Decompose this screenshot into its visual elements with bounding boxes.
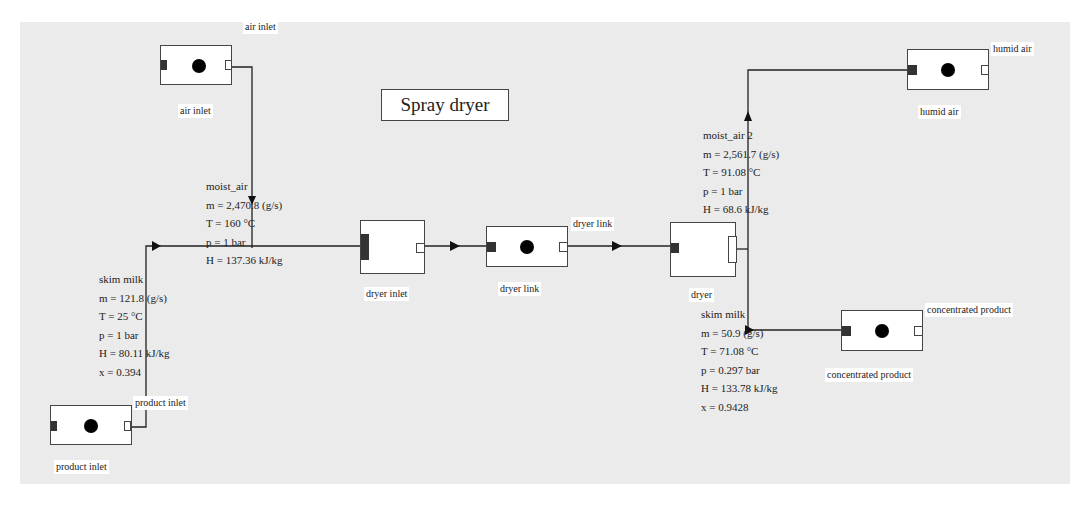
stream-moist-air-2: moist_air 2 m = 2,561.7 (g/s) T = 91.08 … — [703, 126, 779, 219]
product-inlet-bottom-label: product inlet — [54, 460, 109, 474]
source-dot-icon — [520, 240, 534, 254]
dryer-link-bottom-label: dryer link — [498, 282, 541, 296]
arrow-right-icon — [450, 241, 460, 251]
inlet-port[interactable] — [487, 242, 496, 252]
stream-pressure: p = 0.297 bar — [701, 361, 777, 380]
stream-pressure: p = 1 bar — [99, 326, 170, 345]
outlet-port[interactable] — [559, 242, 568, 252]
sink-dot-icon — [941, 63, 955, 77]
sink-dot-icon — [875, 324, 889, 338]
stream-temperature: T = 91.08 °C — [703, 163, 779, 182]
stream-name: skim milk — [701, 305, 777, 324]
air-inlet-block[interactable] — [160, 45, 232, 85]
arrow-right-icon — [152, 241, 161, 251]
inlet-port[interactable] — [671, 243, 679, 253]
stream-mass-flow: m = 121.8 (g/s) — [99, 289, 170, 308]
stream-mass-flow: m = 2,470.8 (g/s) — [206, 196, 282, 215]
stream-enthalpy: H = 137.36 kJ/kg — [206, 251, 282, 270]
product-inlet-top-label: product inlet — [133, 396, 188, 410]
outlet-port[interactable] — [225, 60, 232, 70]
stream-name: moist_air 2 — [703, 126, 779, 145]
stream-temperature: T = 71.08 °C — [701, 342, 777, 361]
stream-enthalpy: H = 68.6 kJ/kg — [703, 200, 779, 219]
source-dot-icon — [192, 59, 206, 73]
outlet-port[interactable] — [981, 65, 989, 75]
dryer-inlet-label: dryer inlet — [364, 287, 409, 301]
product-inlet-block[interactable] — [50, 405, 132, 445]
inlet-port[interactable] — [161, 60, 167, 70]
stream-mass-flow: m = 50.9 (g/s) — [701, 324, 777, 343]
arrow-up-icon — [744, 111, 752, 121]
source-dot-icon — [84, 419, 98, 433]
stream-skim-milk-out: skim milk m = 50.9 (g/s) T = 71.08 °C p … — [701, 305, 777, 416]
humid-air-bottom-label: humid air — [918, 105, 961, 119]
inlet-port[interactable] — [908, 65, 917, 75]
concentrated-product-top-label: concentrated product — [925, 303, 1013, 317]
stream-moist-air: moist_air m = 2,470.8 (g/s) T = 160 °C p… — [206, 177, 282, 270]
air-inlet-top-label: air inlet — [243, 20, 278, 34]
concentrated-product-bottom-label: concentrated product — [825, 368, 913, 382]
dryer-block[interactable] — [670, 222, 736, 277]
stream-mass-flow: m = 2,561.7 (g/s) — [703, 145, 779, 164]
inlet-port[interactable] — [842, 326, 851, 336]
humid-air-block[interactable] — [907, 49, 989, 90]
dryer-label: dryer — [689, 288, 714, 302]
concentrated-product-block[interactable] — [841, 310, 923, 351]
inlet-port[interactable] — [51, 421, 57, 431]
stream-temperature: T = 160 °C — [206, 214, 282, 233]
stream-name: skim milk — [99, 270, 170, 289]
stream-pressure: p = 1 bar — [703, 182, 779, 201]
outlet-port[interactable] — [728, 236, 737, 263]
diagram-title: Spray dryer — [381, 89, 509, 121]
dryer-link-top-label: dryer link — [571, 217, 614, 231]
dryer-inlet-block[interactable] — [360, 220, 425, 274]
stream-pressure: p = 1 bar — [206, 233, 282, 252]
stream-concentration: x = 0.394 — [99, 363, 170, 382]
stream-concentration: x = 0.9428 — [701, 398, 777, 417]
arrow-right-icon — [612, 241, 622, 251]
air-inlet-bottom-label: air inlet — [178, 104, 213, 118]
outlet-port[interactable] — [914, 326, 923, 336]
humid-air-top-label: humid air — [991, 42, 1034, 56]
dryer-link-block[interactable] — [486, 226, 568, 267]
stream-enthalpy: H = 80.11 kJ/kg — [99, 344, 170, 363]
outlet-port[interactable] — [416, 243, 425, 253]
stream-name: moist_air — [206, 177, 282, 196]
stream-enthalpy: H = 133.78 kJ/kg — [701, 379, 777, 398]
stream-temperature: T = 25 °C — [99, 307, 170, 326]
outlet-port[interactable] — [124, 421, 131, 431]
stream-skim-milk-in: skim milk m = 121.8 (g/s) T = 25 °C p = … — [99, 270, 170, 381]
inlet-port[interactable] — [361, 234, 369, 260]
